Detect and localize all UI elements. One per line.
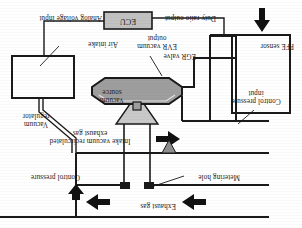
- label-ecu: ECU: [104, 17, 152, 25]
- label-control-pressure: Control pressure: [31, 173, 80, 181]
- label-egr-valve: EGR valve: [163, 52, 196, 60]
- label-air-intake: Air intake: [88, 40, 118, 48]
- label-evr-vacuum-output-line1: EVR vacuum: [122, 42, 192, 50]
- arrow-exhaust-gas: [182, 194, 206, 210]
- label-intake-vacuum-line2: exhaust gas: [30, 129, 150, 137]
- label-intake-vacuum-line1: Intake vacuum recirculated: [30, 137, 150, 145]
- arrow-air-intake: [254, 8, 270, 32]
- arrow-pressure-tap: [68, 184, 84, 200]
- egr-system-diagram: Exhaust gas Metering hole Intake vacuum …: [0, 0, 302, 228]
- diagram-page: Exhaust gas Metering hole Intake vacuum …: [0, 0, 302, 228]
- exhaust-duct: [0, 185, 269, 217]
- label-exhaust-gas: Exhaust gas: [140, 202, 176, 210]
- label-vacuum-source-line1: Vacuum: [84, 96, 140, 104]
- metering-hole-orifice: [120, 182, 154, 189]
- label-vacuum-regulator-line2: regulator: [8, 112, 64, 120]
- label-control-pressure-input-line2: input: [210, 89, 302, 97]
- label-vacuum-source-line2: source: [84, 88, 140, 96]
- label-control-pressure-input-line1: Control pressure: [210, 97, 302, 105]
- egr-vacuum-line: [182, 58, 210, 87]
- analog-voltage-wire: [44, 21, 104, 56]
- label-analog-voltage-input: Analog voltage input: [39, 14, 102, 22]
- arrow-control-pressure: [86, 194, 110, 210]
- label-pfe-sensor: PFE sensor: [260, 42, 294, 50]
- label-evr-vacuum-output-line2: output: [122, 34, 192, 42]
- label-metering-hole: Metering hole: [198, 173, 240, 181]
- label-duty-ratio-output: Duty ratio output: [165, 14, 216, 22]
- label-vacuum-regulator-line1: Vacuum: [8, 120, 64, 128]
